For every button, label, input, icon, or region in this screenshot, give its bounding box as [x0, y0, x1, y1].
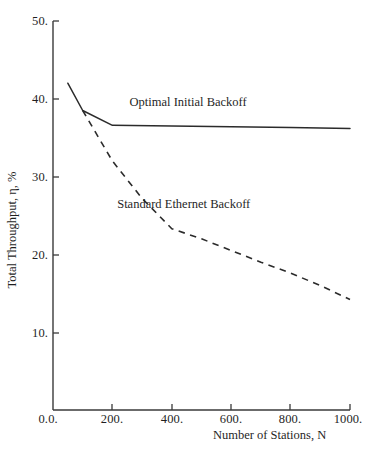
y-axis-title: Total Throughput, η, % [20, 113, 35, 230]
y-tick-label-10: 10. [4, 326, 48, 341]
annotation-optimal-initial-backoff: Optimal Initial Backoff [130, 95, 247, 110]
y-tick-label-40: 40. [4, 92, 48, 107]
x-tick-label-400: 400. [144, 412, 200, 427]
y-axis-title-text: Total Throughput, η, % [5, 172, 20, 289]
y-axis-ticks [53, 21, 59, 333]
x-axis-title: Number of Stations, N [213, 428, 326, 443]
plot-canvas [0, 0, 373, 457]
x-tick-label-200: 200. [84, 412, 140, 427]
x-tick-label-600: 600. [203, 412, 259, 427]
x-tick-label-1000: 1000. [320, 412, 373, 427]
x-tick-label-0: 0. [25, 412, 81, 427]
chart-figure: 50. 40. 30. 20. 10. 0. 0. 200. 400. 600.… [0, 0, 373, 457]
annotation-standard-ethernet-backoff: Standard Ethernet Backoff [117, 197, 250, 212]
x-axis-ticks [112, 404, 350, 410]
y-tick-label-50: 50. [4, 14, 48, 29]
x-tick-label-800: 800. [262, 412, 318, 427]
